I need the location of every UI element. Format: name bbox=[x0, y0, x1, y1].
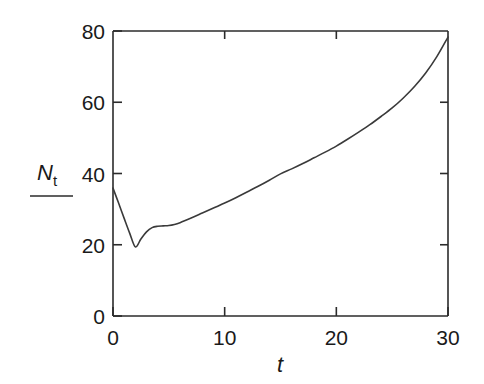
x-tick-label-20: 20 bbox=[325, 326, 348, 349]
y-axis-title: N t bbox=[30, 160, 73, 196]
y-tick-labels: 0 20 40 60 80 bbox=[82, 20, 105, 328]
y-axis-ticks bbox=[113, 31, 122, 316]
x-axis-ticks bbox=[113, 307, 448, 316]
y-axis-right-ticks bbox=[440, 102, 448, 245]
y-tick-label-0: 0 bbox=[93, 305, 105, 328]
y-tick-label-20: 20 bbox=[82, 234, 105, 257]
x-axis-top-ticks bbox=[225, 31, 337, 39]
x-tick-label-0: 0 bbox=[107, 326, 119, 349]
x-tick-label-10: 10 bbox=[213, 326, 236, 349]
y-axis-title-subscript: t bbox=[53, 172, 58, 189]
y-axis-title-main: N bbox=[37, 160, 53, 185]
y-tick-label-80: 80 bbox=[82, 20, 105, 43]
chart-canvas: 0 20 40 60 80 0 10 20 30 N t t bbox=[0, 0, 484, 384]
x-tick-label-30: 30 bbox=[436, 326, 459, 349]
y-tick-label-40: 40 bbox=[82, 163, 105, 186]
x-axis-title: t bbox=[277, 352, 284, 377]
data-series-line bbox=[113, 37, 448, 247]
y-tick-label-60: 60 bbox=[82, 91, 105, 114]
x-tick-labels: 0 10 20 30 bbox=[107, 326, 460, 349]
chart-figure: 0 20 40 60 80 0 10 20 30 N t t bbox=[0, 0, 484, 384]
